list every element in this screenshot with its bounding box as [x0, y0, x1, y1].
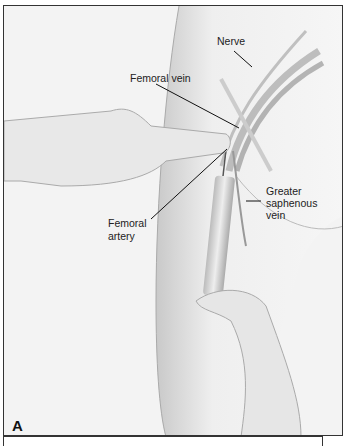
femoral-puncture-illustration [4, 6, 343, 436]
femoral-vein-label: Femoral vein [130, 73, 191, 84]
femoral-artery-label-line2: artery [108, 231, 135, 242]
illustration-frame: Nerve Femoral vein Femoral artery Greate… [3, 5, 343, 436]
saphenous-label-line2: saphenous [266, 198, 317, 209]
saphenous-label-line3: vein [266, 210, 285, 221]
nerve-label: Nerve [217, 36, 245, 47]
saphenous-label-line1: Greater [266, 186, 302, 197]
panel-letter: A [12, 417, 23, 434]
femoral-artery-label-line1: Femoral [108, 218, 147, 229]
next-panel-frame [3, 436, 323, 446]
